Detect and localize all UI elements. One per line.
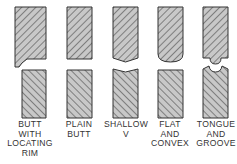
lower-part	[67, 70, 92, 118]
label-line: BUTT	[59, 130, 99, 140]
label-line: GROOVE	[192, 139, 237, 149]
lower-part	[203, 66, 228, 118]
joint-diagram	[0, 0, 237, 120]
joint-shallow-v	[113, 7, 138, 118]
label-butt-with-locating-rim: BUTT WITH LOCATING RIM	[6, 120, 54, 158]
upper-part	[113, 7, 138, 62]
joint-butt-with-locating-rim	[15, 7, 46, 118]
upper-part	[203, 7, 228, 64]
lower-part	[158, 70, 183, 118]
upper-part	[67, 7, 92, 59]
label-line: RIM	[6, 149, 54, 159]
label-tongue-and-groove: TONGUE AND GROOVE	[192, 120, 237, 149]
joint-tongue-and-groove	[203, 7, 228, 118]
lower-part	[113, 69, 138, 118]
joint-plain-butt	[67, 7, 92, 118]
upper-part	[158, 7, 183, 62]
label-shallow-v: SHALLOW V	[101, 120, 151, 139]
label-flat-and-convex: FLAT AND CONVEX	[146, 120, 194, 149]
label-line: CONVEX	[146, 139, 194, 149]
lower-part	[22, 70, 46, 118]
joint-flat-and-convex	[158, 7, 183, 118]
label-plain-butt: PLAIN BUTT	[59, 120, 99, 139]
upper-part	[15, 7, 46, 67]
label-line: V	[101, 130, 151, 140]
